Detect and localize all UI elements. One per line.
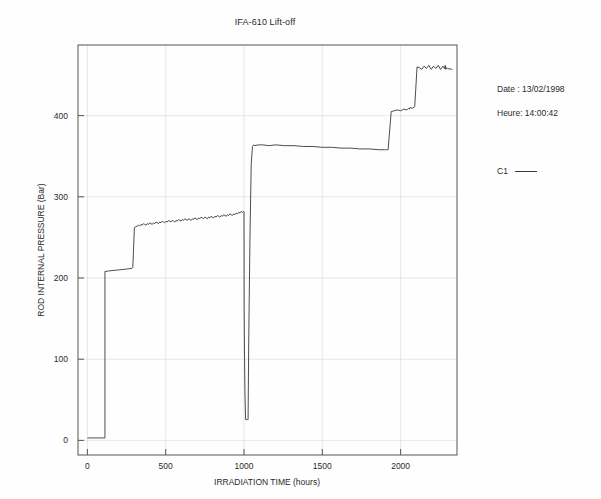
chart-figure: IFA-610 Lift-off 01002003004000500100015… [0, 0, 601, 499]
date-annotation: Date : 13/02/1998 [497, 84, 565, 94]
x-tick-label: 2000 [391, 461, 410, 471]
tick-labels: 01002003004000500100015002000 [54, 111, 411, 471]
x-tick-label: 1000 [235, 461, 254, 471]
x-axis-label: IRRADIATION TIME (hours) [214, 477, 320, 487]
plot-area: 01002003004000500100015002000 ROD INTERN… [0, 0, 601, 499]
y-tick-label: 400 [54, 111, 68, 121]
y-tick-label: 100 [54, 354, 68, 364]
legend-line-swatch [515, 171, 537, 172]
y-tick-label: 200 [54, 273, 68, 283]
plot-frame [78, 45, 457, 455]
x-tick-label: 500 [159, 461, 173, 471]
y-tick-label: 0 [63, 435, 68, 445]
axis-ticks [78, 116, 401, 455]
data-series-c1 [87, 65, 452, 438]
x-tick-label: 1500 [313, 461, 332, 471]
grid-lines [78, 45, 457, 455]
y-tick-label: 300 [54, 192, 68, 202]
time-annotation: Heure: 14:00:42 [497, 108, 558, 118]
legend: C1 [497, 166, 537, 176]
legend-label-c1: C1 [497, 166, 508, 176]
x-tick-label: 0 [85, 461, 90, 471]
y-axis-label: ROD INTERNAL PRESSURE (Bar) [36, 183, 46, 317]
